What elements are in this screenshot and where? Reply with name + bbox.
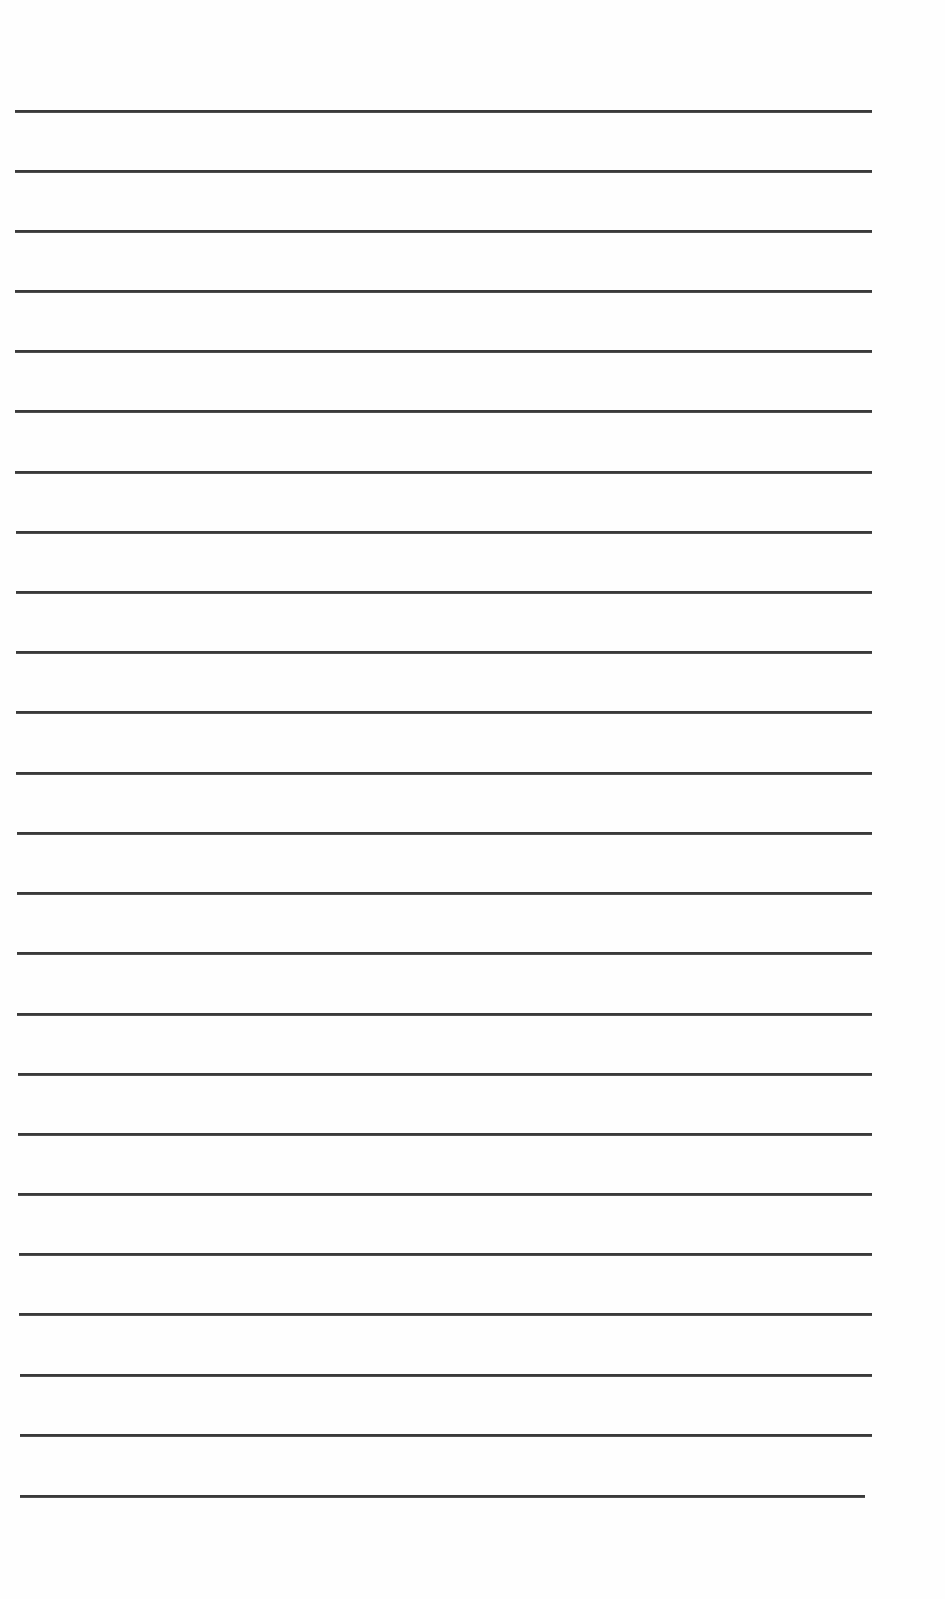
ruled-line	[15, 230, 872, 233]
ruled-line	[17, 832, 872, 835]
ruled-line	[20, 1434, 872, 1437]
ruled-line	[16, 711, 872, 714]
ruled-line	[15, 170, 872, 173]
ruled-line	[19, 1313, 872, 1316]
ruled-line	[20, 1374, 872, 1377]
ruled-line	[16, 651, 872, 654]
ruled-line	[16, 772, 872, 775]
ruled-line	[17, 1013, 872, 1016]
ruled-line	[16, 591, 872, 594]
ruled-line	[18, 1073, 872, 1076]
ruled-line	[16, 531, 872, 534]
ruled-line	[19, 1253, 872, 1256]
ruled-line	[17, 952, 872, 955]
ruled-line	[15, 350, 872, 353]
ruled-line	[15, 471, 872, 474]
ruled-line	[20, 1495, 865, 1498]
ruled-line	[15, 290, 872, 293]
ruled-line	[18, 1133, 872, 1136]
ruled-line	[15, 110, 872, 113]
ruled-line	[17, 892, 872, 895]
lined-paper-page	[0, 0, 945, 1599]
ruled-line	[15, 410, 872, 413]
ruled-line	[18, 1193, 872, 1196]
